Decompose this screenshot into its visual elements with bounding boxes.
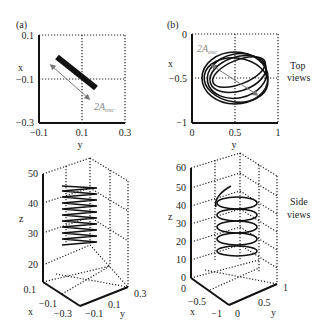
tick: 20 <box>28 259 38 270</box>
tick: 1 <box>276 127 281 138</box>
tick: 0.1 <box>24 284 37 295</box>
tick: 60 <box>176 162 186 173</box>
panel-a-top-view: (a) 2Aosc 0.1 −0.1 −0.3 x −0.1 0.1 0.3 y <box>16 19 131 150</box>
panel-b-label: (b) <box>167 19 179 31</box>
axis-label-z: z <box>168 211 173 222</box>
tick: −1 <box>211 308 222 319</box>
tick: 30 <box>176 218 186 229</box>
tick: −0.5 <box>169 73 187 84</box>
tick: 0.1 <box>22 30 35 41</box>
tick: 0.1 <box>108 299 121 310</box>
tick: 50 <box>176 182 186 193</box>
tick: 40 <box>176 200 186 211</box>
panel-a-side-view: 50 40 30 20 z 0.1 −0.1 −0.3 x −0.1 0.1 0… <box>19 158 147 319</box>
tick: −1 <box>176 117 187 128</box>
axis-label-z: z <box>19 213 24 224</box>
axis-label-x: x <box>18 62 23 73</box>
amplitude-annotation: 2Aosc <box>197 43 218 56</box>
tick: 30 <box>28 228 38 239</box>
row-label-top: views <box>287 72 310 83</box>
axis-label-x: x <box>190 306 195 317</box>
trajectory-loops <box>201 48 271 106</box>
trajectory-helix <box>216 186 257 256</box>
trajectory-band <box>57 57 96 88</box>
amplitude-annotation: 2Aosc <box>94 101 115 114</box>
tick: 0.1 <box>76 127 89 138</box>
tick: 0.3 <box>134 288 147 299</box>
figure: (a) 2Aosc 0.1 −0.1 −0.3 x −0.1 0.1 0.3 y… <box>0 0 329 333</box>
tick: −0.1 <box>16 74 34 85</box>
tick: 0.5 <box>258 297 271 308</box>
row-label-top: Top <box>290 60 305 71</box>
panel-b-side-view: 60 50 40 30 20 10 0 z 0 −0.5 −1 x 0 0.5 … <box>168 153 310 319</box>
row-label-side: views <box>287 209 310 220</box>
trajectory-zigzag <box>62 186 97 245</box>
axis-label-x: x <box>28 306 33 317</box>
axis-label-x: x <box>168 58 173 69</box>
tick: −0.1 <box>30 127 48 138</box>
axis-label-y: y <box>120 308 125 319</box>
tick: 0 <box>182 29 187 40</box>
tick: 50 <box>28 168 38 179</box>
axis-label-y: y <box>232 139 237 150</box>
tick: 0.3 <box>119 127 132 138</box>
tick: −0.1 <box>85 308 103 319</box>
tick: −0.3 <box>54 308 72 319</box>
row-label-side: Side <box>290 196 308 207</box>
tick: 0 <box>235 308 240 319</box>
tick: 0.5 <box>229 127 242 138</box>
tick: 20 <box>176 236 186 247</box>
axis-label-y: y <box>271 307 276 318</box>
tick: 0 <box>181 283 186 294</box>
tick: 0 <box>190 127 195 138</box>
axis-label-y: y <box>78 139 83 150</box>
tick: 40 <box>28 198 38 209</box>
tick: 10 <box>176 254 186 265</box>
panel-b-top-view: (b) 2Aosc 0 −0.5 −1 x 0 0.5 1 y Top view… <box>167 19 310 150</box>
tick: 0 <box>181 272 186 283</box>
tick: 1 <box>283 282 288 293</box>
